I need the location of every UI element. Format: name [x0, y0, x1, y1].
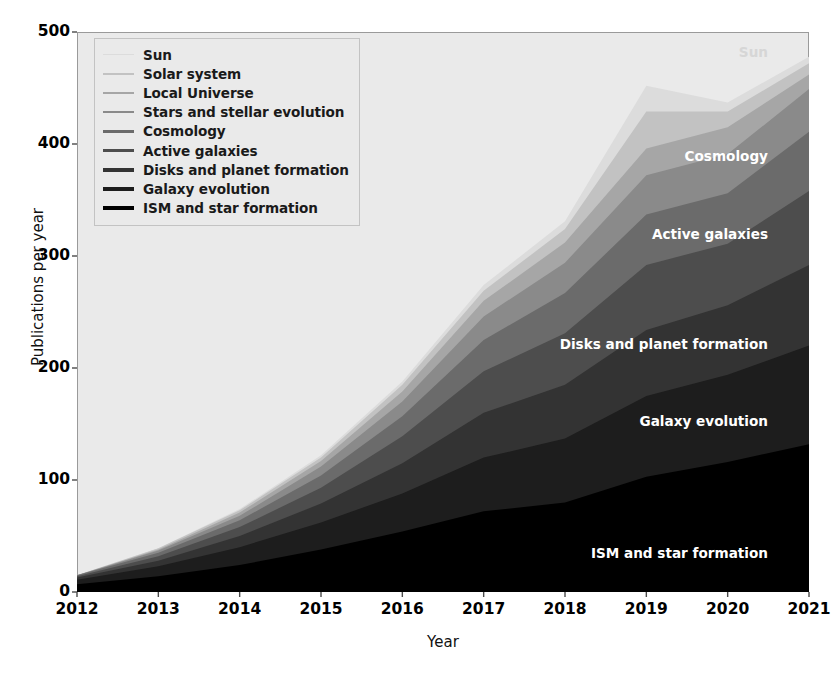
- x-tick-label: 2021: [769, 600, 837, 618]
- area-label: Sun: [0, 44, 768, 60]
- legend: SunSolar systemLocal UniverseStars and s…: [94, 38, 360, 226]
- legend-item: Cosmology: [101, 122, 351, 141]
- legend-label: Stars and stellar evolution: [143, 104, 344, 120]
- legend-swatch-icon: [103, 187, 134, 191]
- legend-swatch-icon: [103, 206, 134, 210]
- legend-label: Disks and planet formation: [143, 162, 349, 178]
- x-tick-label: 2016: [362, 600, 442, 618]
- legend-label: ISM and star formation: [143, 200, 318, 216]
- y-tick-label: 0: [8, 582, 70, 600]
- legend-label: Local Universe: [143, 85, 254, 101]
- legend-item: Stars and stellar evolution: [101, 103, 351, 122]
- legend-swatch-icon: [103, 73, 134, 75]
- x-tick-label: 2012: [37, 600, 117, 618]
- y-tick-label: 500: [8, 22, 70, 40]
- x-tick-label: 2013: [118, 600, 198, 618]
- x-tick-label: 2015: [281, 600, 361, 618]
- legend-label: Solar system: [143, 66, 241, 82]
- area-label: ISM and star formation: [0, 545, 768, 561]
- area-label: Galaxy evolution: [0, 413, 768, 429]
- x-axis-title: Year: [77, 633, 809, 651]
- area-label: Disks and planet formation: [0, 336, 768, 352]
- y-tick-label: 100: [8, 470, 70, 488]
- y-axis-title: Publications per year: [29, 177, 47, 397]
- legend-swatch-icon: [103, 92, 134, 94]
- legend-label: Cosmology: [143, 123, 226, 139]
- legend-item: Galaxy evolution: [101, 179, 351, 198]
- legend-swatch-icon: [103, 130, 134, 133]
- x-tick-label: 2019: [606, 600, 686, 618]
- legend-swatch-icon: [103, 111, 134, 113]
- legend-label: Galaxy evolution: [143, 181, 270, 197]
- x-tick-label: 2020: [688, 600, 768, 618]
- legend-item: Solar system: [101, 64, 351, 83]
- legend-item: ISM and star formation: [101, 199, 351, 218]
- area-label: Active galaxies: [0, 226, 768, 242]
- x-tick-label: 2018: [525, 600, 605, 618]
- area-label: Cosmology: [0, 148, 768, 164]
- x-tick-label: 2014: [200, 600, 280, 618]
- figure: 0100200300400500 20122013201420152016201…: [0, 0, 837, 674]
- legend-item: Local Universe: [101, 83, 351, 102]
- legend-swatch-icon: [103, 168, 134, 172]
- x-tick-label: 2017: [444, 600, 524, 618]
